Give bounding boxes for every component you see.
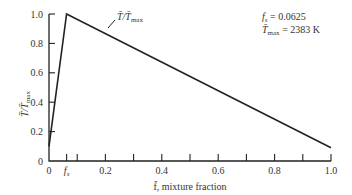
y-tick-label: 0.2 — [31, 126, 44, 137]
x-tick-label: 0.2 — [99, 165, 112, 176]
x-tick-label: 1.0 — [325, 165, 338, 176]
x-axis-title: f̄, mixture fraction — [153, 181, 226, 192]
y-tick-label: 0.4 — [31, 97, 44, 108]
y-tick-label: 0 — [38, 156, 43, 167]
ticks — [49, 14, 331, 161]
y-tick-label: 1.0 — [31, 9, 44, 20]
x-tick-label: 0.8 — [268, 165, 281, 176]
y-axis-title: T̄/T̄max — [19, 91, 32, 117]
x-tick-label: 0 — [47, 165, 52, 176]
y-tick-label: 0.8 — [31, 38, 44, 49]
curve-label: T̄/T̄max — [117, 11, 143, 24]
x-tick-label: 0.6 — [212, 165, 225, 176]
x-tick-label: 0.4 — [156, 165, 169, 176]
curve-label-leader — [108, 20, 115, 28]
axes — [49, 14, 331, 161]
tmax-annotation: T̄max = 2383 K — [262, 24, 321, 37]
axis-lines — [49, 14, 331, 161]
y-tick-label: 0.6 — [31, 67, 44, 78]
x-tick-label: fs — [64, 165, 70, 178]
fs-annotation: fs = 0.0625 — [262, 11, 306, 24]
mixture-fraction-chart: 00.20.40.60.81.00fs0.20.40.60.81.0 T̄/T̄… — [0, 0, 352, 195]
